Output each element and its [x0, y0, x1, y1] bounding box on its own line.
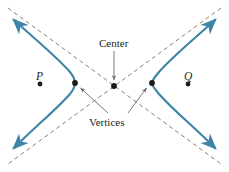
right-branch-upper-arrow: [209, 19, 216, 26]
left-branch-lower-arrow: [13, 142, 20, 149]
point-q-label: Q: [184, 71, 192, 83]
vertex-point-left: [72, 80, 78, 86]
left-branch-upper-arrow: [13, 19, 20, 26]
hyperbola-right-branch: [152, 20, 215, 148]
vertices-label: Vertices: [89, 117, 124, 128]
figure-canvas: [0, 0, 229, 172]
right-branch-lower-arrow: [209, 142, 216, 149]
center-point: [111, 83, 117, 89]
vertices-leader-line-left: [81, 88, 109, 113]
vertex-point-right: [149, 80, 155, 86]
hyperbola-figure: Center Vertices P Q: [0, 0, 229, 172]
hyperbola-left-branch: [14, 20, 75, 148]
point-p-label: P: [36, 71, 43, 83]
vertices-leader-line-right: [128, 88, 147, 113]
center-label: Center: [99, 38, 128, 49]
